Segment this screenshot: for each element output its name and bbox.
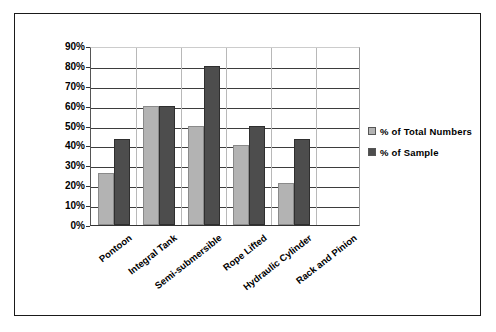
bar-0 [98, 173, 114, 225]
x-axis-label-text: Pontoon [96, 232, 133, 264]
y-axis-tick-label: 60% [45, 102, 85, 112]
y-axis-tick-mark [86, 166, 90, 167]
gridline [91, 108, 359, 109]
category-separator [271, 48, 272, 225]
y-axis-tick-label: 50% [45, 122, 85, 132]
bar-0 [233, 145, 249, 225]
category-separator [226, 48, 227, 225]
gridline [91, 167, 359, 168]
legend-swatch-icon [368, 148, 376, 156]
bar-1 [204, 66, 220, 225]
y-axis-tick-label: 40% [45, 141, 85, 151]
gridline [91, 187, 359, 188]
bar-0 [278, 183, 294, 225]
y-axis-tick-mark [86, 146, 90, 147]
y-axis-tick-mark [86, 107, 90, 108]
y-axis: 0%10%20%30%40%50%60%70%80%90% [41, 47, 85, 226]
y-axis-tick-mark [86, 67, 90, 68]
y-axis-tick-label: 80% [45, 62, 85, 72]
y-axis-tick-mark [86, 186, 90, 187]
chart-legend: % of Total Numbers% of Sample [368, 123, 493, 165]
chart-figure: 0%10%20%30%40%50%60%70%80%90% PontoonInt… [0, 0, 496, 332]
y-axis-tick-mark [86, 47, 90, 48]
y-axis-tick-mark [86, 206, 90, 207]
legend-item: % of Total Numbers [368, 123, 493, 139]
bar-0 [188, 126, 204, 225]
legend-swatch-icon [368, 127, 376, 135]
y-axis-tick-label: 90% [45, 42, 85, 52]
y-axis-tick-mark [86, 226, 90, 227]
category-separator [136, 48, 137, 225]
y-axis-tick-label: 10% [45, 201, 85, 211]
category-separator [316, 48, 317, 225]
plot-area [90, 47, 360, 226]
gridline [91, 207, 359, 208]
bar-1 [249, 126, 265, 225]
chart-frame-border: 0%10%20%30%40%50%60%70%80%90% PontoonInt… [14, 13, 481, 316]
gridline [91, 147, 359, 148]
bar-1 [159, 106, 175, 225]
bar-1 [114, 139, 130, 225]
bar-0 [143, 106, 159, 225]
gridline [91, 128, 359, 129]
gridline [91, 68, 359, 69]
bar-1 [294, 139, 310, 225]
y-axis-tick-label: 0% [45, 221, 85, 231]
y-axis-tick-label: 70% [45, 82, 85, 92]
category-separator [181, 48, 182, 225]
legend-item: % of Sample [368, 144, 493, 160]
y-axis-tick-label: 30% [45, 161, 85, 171]
legend-label: % of Total Numbers [380, 126, 472, 137]
y-axis-tick-label: 20% [45, 181, 85, 191]
y-axis-tick-mark [86, 127, 90, 128]
gridline [91, 88, 359, 89]
y-axis-tick-mark [86, 87, 90, 88]
x-axis-category-labels: PontoonIntegral TankSemi-submersibleRope… [90, 226, 360, 296]
legend-label: % of Sample [380, 147, 439, 158]
